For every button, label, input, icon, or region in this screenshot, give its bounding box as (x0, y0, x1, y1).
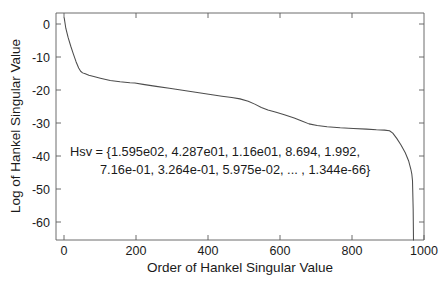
hankel-singular-value-plot: 0 -10 -20 -30 -40 -50 -60 0 200 400 600 … (0, 0, 439, 291)
y-tick-labels: 0 -10 -20 -30 -40 -50 -60 (32, 18, 50, 230)
x-tick-label: 400 (198, 244, 219, 258)
x-tick-label: 200 (126, 244, 147, 258)
x-tick-label: 1000 (410, 244, 438, 258)
y-tick-label: -60 (32, 216, 50, 230)
data-series-line (64, 18, 413, 240)
x-tick-label: 600 (270, 244, 291, 258)
x-axis-title: Order of Hankel Singular Value (147, 260, 333, 275)
x-axis-ticks (64, 13, 424, 240)
y-axis-title: Log of Hankel Singular Value (8, 39, 23, 213)
x-tick-labels: 0 200 400 600 800 1000 (61, 244, 438, 258)
hsv-annotation-line-1: Hsv = {1.595e02, 4.287e01, 1.16e01, 8.69… (70, 144, 360, 159)
y-tick-label: -30 (32, 117, 50, 131)
y-tick-label: 0 (43, 18, 50, 32)
hsv-values-annotation: Hsv = {1.595e02, 4.287e01, 1.16e01, 8.69… (70, 144, 371, 177)
x-tick-label: 800 (342, 244, 363, 258)
hsv-annotation-line-2: 7.16e-01, 3.264e-01, 5.975e-02, ... , 1.… (100, 162, 371, 177)
chart-figure: 0 -10 -20 -30 -40 -50 -60 0 200 400 600 … (0, 0, 439, 291)
y-tick-label: -20 (32, 84, 50, 98)
plot-frame (56, 13, 424, 240)
y-tick-label: -10 (32, 51, 50, 65)
y-axis-ticks (56, 24, 424, 222)
y-tick-label: -40 (32, 150, 50, 164)
y-tick-label: -50 (32, 183, 50, 197)
x-tick-label: 0 (61, 244, 68, 258)
